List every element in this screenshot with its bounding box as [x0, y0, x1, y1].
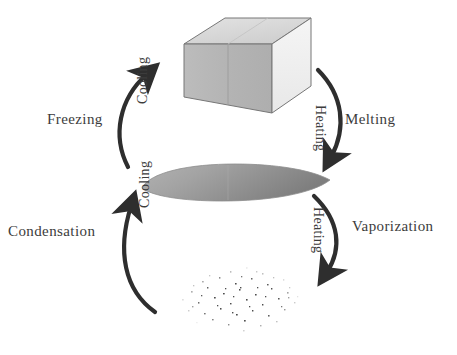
liquid-state-puddle — [142, 164, 330, 201]
arrow-direction-label-heating-top: Heating — [313, 105, 327, 151]
transition-label-condensation: Condensation — [8, 224, 95, 239]
phase-change-diagram: Freezing Melting Condensation Vaporizati… — [0, 0, 457, 355]
transition-label-vaporization: Vaporization — [352, 219, 433, 234]
transition-label-freezing: Freezing — [47, 112, 103, 127]
arrow-direction-label-cooling-bottom: Cooling — [138, 161, 152, 208]
diagram-canvas — [0, 0, 457, 355]
transition-label-melting: Melting — [345, 112, 395, 127]
liquid-shape — [142, 164, 330, 201]
arrow-direction-label-heating-bottom: Heating — [311, 207, 325, 253]
gas-state-particles — [166, 258, 318, 342]
arrow-condensation — [124, 206, 155, 312]
solid-state-block — [184, 18, 311, 113]
arrow-direction-label-cooling-top: Cooling — [136, 57, 150, 104]
